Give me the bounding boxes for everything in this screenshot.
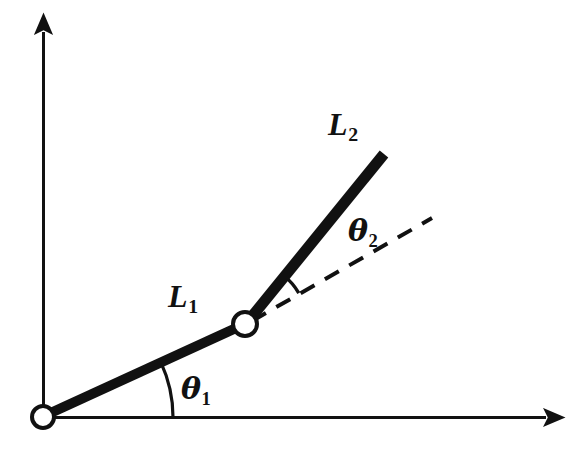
links-group	[44, 154, 384, 416]
axes-group	[43, 32, 546, 418]
theta-1-label-base: θ	[181, 371, 201, 406]
link-1-label-base: L	[168, 278, 188, 314]
link-1	[44, 323, 247, 416]
elbow-joint	[233, 312, 257, 336]
base-joint	[32, 406, 54, 428]
theta-1-label-subscript: 1	[202, 388, 211, 409]
theta-2-label-base: θ	[348, 213, 368, 248]
link-1-label-subscript: 1	[188, 295, 198, 317]
link-2-label-subscript: 2	[348, 123, 358, 145]
theta-2-label-subscript: 2	[369, 230, 378, 251]
theta-1-label: θ1	[181, 374, 210, 404]
kinematics-diagram-figure: L1 L2 θ1 θ2	[0, 0, 578, 449]
diagram-canvas	[0, 0, 578, 449]
link-2-label: L2	[328, 108, 357, 140]
theta1-arc	[161, 363, 173, 417]
link-1-extension-dashed	[252, 218, 432, 321]
theta-2-label: θ2	[348, 216, 377, 246]
link-1-label: L1	[168, 280, 197, 312]
link-2-label-base: L	[328, 106, 348, 142]
